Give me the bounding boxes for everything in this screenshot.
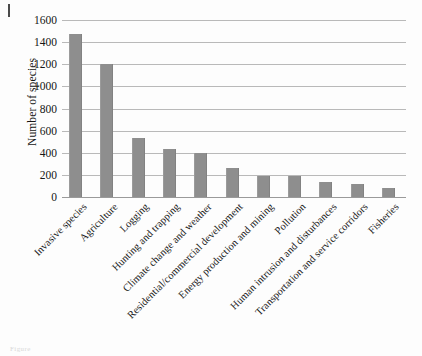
x-tick-label: Invasive species xyxy=(32,201,89,258)
bar xyxy=(132,138,145,197)
x-tick-label: Residential/commercial development xyxy=(125,201,245,321)
y-tick-label: 200 xyxy=(40,169,57,181)
bar xyxy=(163,149,176,197)
bar xyxy=(226,168,239,197)
x-axis-category-labels: Invasive speciesAgricultureLoggingHuntin… xyxy=(62,201,422,351)
y-tick-label: 1000 xyxy=(34,80,57,92)
x-axis-baseline xyxy=(62,197,406,198)
bar-series xyxy=(62,20,406,197)
plot-area: 02004006008001000120014001600 xyxy=(62,20,406,197)
bar xyxy=(100,64,113,197)
bar xyxy=(382,188,395,197)
y-tick-label: 800 xyxy=(40,103,57,115)
y-tick-label: 0 xyxy=(51,191,57,203)
y-tick-label: 1200 xyxy=(34,58,57,70)
y-tick-label: 1600 xyxy=(34,14,57,26)
bar xyxy=(351,184,364,197)
bar xyxy=(194,153,207,197)
y-tick-label: 600 xyxy=(40,125,57,137)
bar xyxy=(69,34,82,197)
y-axis-title: Number of species xyxy=(26,37,38,167)
x-tick-label: Fisheries xyxy=(366,201,401,236)
page-edge-mark xyxy=(8,4,10,17)
figure-page: Number of species 0200400600800100012001… xyxy=(0,0,422,356)
y-tick-label: 400 xyxy=(40,147,57,159)
bar xyxy=(319,182,332,197)
bar xyxy=(288,176,301,197)
y-tick-label: 1400 xyxy=(34,36,57,48)
caption-remnant: Figure xyxy=(10,345,31,353)
bar xyxy=(257,176,270,197)
